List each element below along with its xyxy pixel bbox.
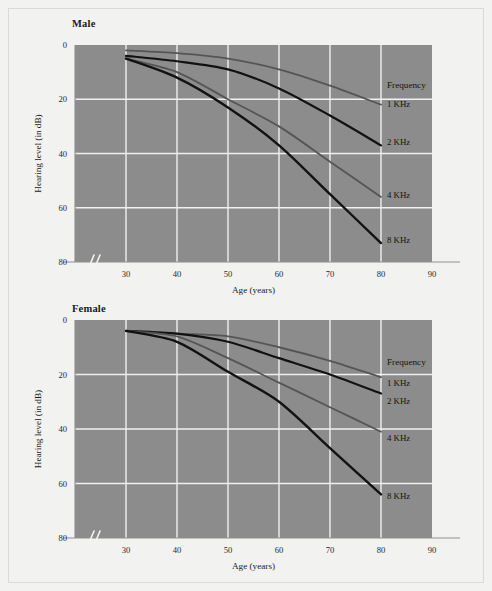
x-tick-label: 60 [275,269,284,279]
y-tick-label: 0 [63,40,67,50]
chart-female: 02040608030405060708090Age (years)Hearin… [0,291,492,591]
y-tick-label: 40 [58,424,67,434]
x-tick-label: 30 [122,545,131,555]
x-tick-label: 40 [173,269,182,279]
panel-female: Female 02040608030405060708090Age (years… [0,291,492,591]
x-tick-label: 80 [377,545,386,555]
panel-male: Male 02040608030405060708090Age (years)H… [0,0,492,295]
x-tick-label: 60 [275,545,284,555]
x-tick-label: 30 [122,269,131,279]
x-tick-label: 80 [377,269,386,279]
legend-label: 2 KHz [387,396,410,406]
y-tick-label: 80 [58,533,67,543]
x-axis-title: Age (years) [232,561,275,571]
y-axis-title: Hearing level (in dB) [33,390,43,468]
x-tick-label: 70 [326,545,335,555]
figure-root: Male 02040608030405060708090Age (years)H… [0,0,492,591]
legend-label: 8 KHz [387,235,410,245]
legend-label: 4 KHz [387,190,410,200]
y-tick-label: 0 [63,315,67,325]
y-tick-label: 20 [58,370,67,380]
legend-label: 1 KHz [387,99,410,109]
x-tick-label: 90 [428,269,437,279]
y-axis-title: Hearing level (in dB) [33,114,43,192]
legend-label: 4 KHz [387,433,410,443]
x-tick-label: 50 [224,545,233,555]
legend-title: Frequency [387,357,426,367]
x-tick-label: 40 [173,545,182,555]
y-tick-label: 40 [58,149,67,159]
chart-male: 02040608030405060708090Age (years)Hearin… [0,0,492,295]
x-tick-label: 70 [326,269,335,279]
y-tick-label: 60 [58,479,67,489]
y-tick-label: 20 [58,94,67,104]
legend-label: 1 KHz [387,378,410,388]
y-tick-label: 80 [58,257,67,267]
y-tick-label: 60 [58,203,67,213]
legend-label: 2 KHz [387,137,410,147]
legend-label: 8 KHz [387,491,410,501]
x-tick-label: 90 [428,545,437,555]
x-tick-label: 50 [224,269,233,279]
legend-title: Frequency [387,80,426,90]
